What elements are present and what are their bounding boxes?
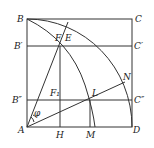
label-f: F (54, 33, 62, 43)
label-m: M (85, 130, 96, 140)
label-e: E (64, 33, 72, 43)
label-phi: φ (34, 108, 41, 118)
label-f1: F₁ (49, 88, 60, 98)
label-b1: B′ (13, 41, 23, 51)
label-c2: C″ (134, 95, 145, 105)
label-d: D (132, 125, 140, 135)
label-n: N (122, 72, 132, 82)
label-b: B (16, 14, 24, 24)
square-abcd (27, 19, 132, 127)
label-c: C (135, 14, 142, 24)
label-c1: C′ (134, 41, 143, 51)
label-a: A (17, 125, 25, 135)
label-h: H (55, 130, 64, 140)
outer-arc-bd (27, 19, 132, 127)
label-b2: B″ (11, 95, 23, 105)
label-l: L (91, 88, 98, 98)
quadratrix-diagram: B C B′ C′ B″ C″ F E F₁ L N A H M D φ (0, 0, 154, 148)
